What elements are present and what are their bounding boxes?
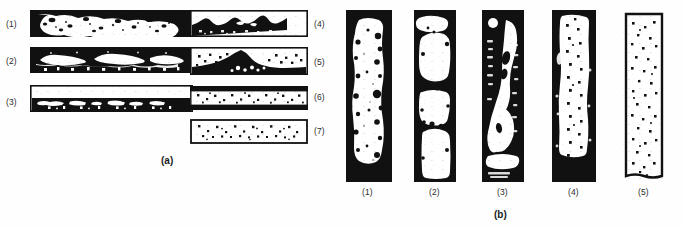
specimen-label-a6: (6)	[314, 93, 325, 102]
panel-a: (1)	[0, 0, 330, 180]
panel-b-caption: (b)	[494, 209, 507, 220]
specimen-b5	[622, 10, 666, 182]
figure-root: (1)	[0, 0, 683, 228]
specimen-a5	[190, 47, 308, 75]
specimen-a3	[30, 85, 193, 112]
specimen-label-a5: (5)	[314, 58, 325, 67]
specimen-label-b2: (2)	[429, 188, 440, 197]
specimen-label-b4: (4)	[568, 188, 579, 197]
specimen-label-b3: (3)	[497, 188, 508, 197]
specimen-a6	[190, 86, 308, 110]
specimen-b3	[482, 10, 524, 182]
specimen-label-a1: (1)	[6, 20, 17, 29]
specimen-label-a3: (3)	[6, 98, 17, 107]
specimen-label-a7: (7)	[314, 127, 325, 136]
specimen-label-b5: (5)	[638, 188, 649, 197]
specimen-a2	[30, 47, 193, 73]
specimen-b4	[552, 10, 596, 182]
specimen-a1	[30, 10, 193, 37]
specimen-b1	[346, 10, 392, 182]
specimen-b2	[414, 10, 456, 182]
specimen-a4	[190, 10, 308, 37]
panel-b: (1) (2)	[330, 0, 683, 228]
specimen-label-b1: (1)	[362, 188, 373, 197]
panel-a-caption: (a)	[161, 155, 173, 166]
specimen-a7	[190, 119, 308, 144]
specimen-label-a2: (2)	[6, 57, 17, 66]
specimen-label-a4: (4)	[314, 20, 325, 29]
